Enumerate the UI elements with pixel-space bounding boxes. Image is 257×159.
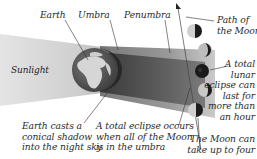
umbra-leader [110,20,118,50]
casts-line-1: Earth casts a [22,121,102,132]
earth-casts-label: Earth casts a conical shadow into the ni… [22,121,102,153]
moon-phase-2 [198,43,212,57]
penumbra-label: Penumbra [124,10,171,21]
occurs-line-1: A total eclipse occurs [96,121,194,132]
casts-line-3: into the night sky [22,142,102,153]
total-eclipse-duration-label: A total lunar eclipse can last for more … [204,59,255,123]
earth-label: Earth [40,10,66,21]
path-line-1: Path of [217,15,257,26]
moon-phase-1 [187,24,202,38]
arrow-up-left-icon [176,3,181,9]
duration-line-1: A total [204,59,255,70]
lunar-eclipse-diagram: Earth Umbra Penumbra Path of the Moon Su… [0,0,257,159]
umbra-label: Umbra [78,10,110,21]
penumbra-leader [165,20,170,53]
total-occurs-label: A total eclipse occurs when all of the M… [96,121,194,153]
earth-globe-icon [72,48,122,92]
sunlight-label: Sunlight [11,65,49,76]
path-leader [186,17,214,21]
moon-can-line-1: The Moon can [187,134,255,145]
path-of-moon-label: Path of the Moon [217,15,257,36]
earth-casts-leader [84,92,108,123]
occurs-line-3: is in the umbra [96,142,194,153]
duration-line-6: an hour [204,112,255,123]
path-line-2: the Moon [217,26,257,37]
moon-phase-5 [188,103,203,117]
moon-can-label: The Moon can take up to four [187,134,255,155]
moon-can-line-2: take up to four [187,145,255,156]
